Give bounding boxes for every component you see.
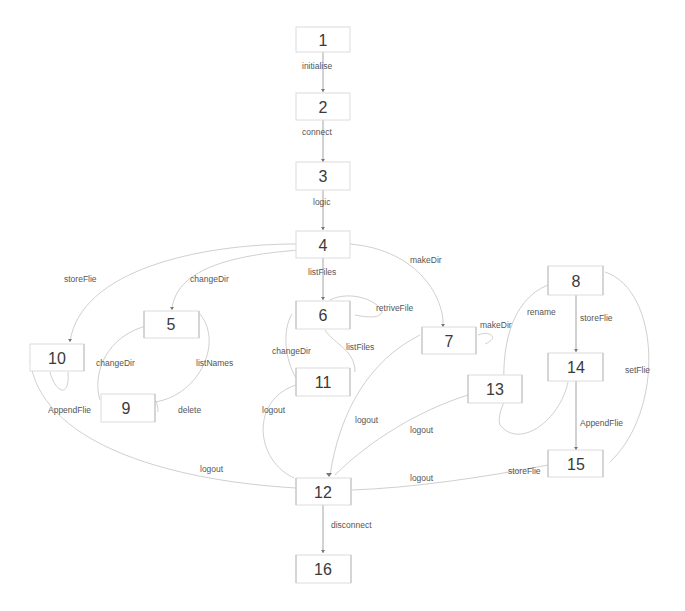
state-node-8[interactable]: 8	[548, 266, 603, 295]
edge-label-storeflie-3: storeFlie	[508, 466, 541, 476]
node-label: 10	[48, 350, 66, 367]
edge-label-logout-2: logout	[262, 405, 286, 415]
node-label: 15	[567, 456, 585, 473]
edge-label-makedir: makeDir	[410, 255, 442, 265]
edge-label-retrivefile: retriveFile	[376, 303, 414, 313]
state-node-16[interactable]: 16	[296, 555, 351, 583]
edge-label-changedir-2: changeDir	[272, 346, 311, 356]
edge-7-12	[330, 335, 420, 475]
state-node-6[interactable]: 6	[296, 301, 350, 329]
node-label: 13	[486, 381, 504, 398]
edge-13-12	[335, 395, 468, 475]
edge-label-appendflie: AppendFlie	[48, 405, 91, 415]
edge-label-logout-1: logout	[200, 464, 224, 474]
edge-label-setflie: setFlie	[625, 365, 650, 375]
state-node-9[interactable]: 9	[101, 394, 155, 422]
arrowhead	[326, 473, 332, 477]
edge-label-changedir-3: changeDir	[96, 358, 135, 368]
arrowhead	[321, 550, 325, 553]
arrowhead	[321, 89, 325, 92]
state-node-11[interactable]: 11	[296, 368, 350, 396]
arrowhead	[321, 297, 325, 300]
edge-label-changedir: changeDir	[190, 274, 229, 284]
state-node-1[interactable]: 1	[296, 27, 350, 52]
node-label: 16	[314, 561, 332, 578]
edge-label-logic: logic	[313, 197, 331, 207]
state-node-12[interactable]: 12	[296, 478, 351, 505]
edge-label-connect: connect	[302, 127, 332, 137]
node-label: 7	[445, 333, 454, 350]
edge-11-12	[263, 385, 296, 478]
edge-label-rename: rename	[527, 307, 556, 317]
edge-label-logout-5: logout	[410, 473, 434, 483]
state-node-15[interactable]: 15	[548, 450, 603, 477]
node-label: 1	[319, 32, 328, 49]
node-label: 5	[167, 316, 176, 333]
state-node-10[interactable]: 10	[30, 344, 84, 371]
edge-label-storeflie-2: storeFlie	[580, 313, 613, 323]
edge-label-listfiles: listFiles	[308, 267, 336, 277]
edge-10-12	[30, 360, 296, 488]
state-node-4[interactable]: 4	[296, 231, 350, 258]
edge-label-logout-3: logout	[355, 415, 379, 425]
state-diagram: 1 2 3 4 5 6	[0, 0, 685, 611]
node-label: 11	[315, 374, 332, 391]
nodes: 1 2 3 4 5 6	[30, 27, 603, 583]
edge-label-appendflie-2: AppendFlie	[580, 418, 623, 428]
node-label: 2	[319, 99, 328, 116]
edge-10-10	[50, 372, 68, 390]
state-node-5[interactable]: 5	[144, 311, 199, 338]
node-label: 12	[314, 484, 332, 501]
arrowhead	[321, 227, 325, 230]
edge-label-delete: delete	[178, 405, 201, 415]
arrowhead	[170, 307, 174, 310]
edge-label-listfiles-2: listFiles	[346, 342, 374, 352]
state-node-14[interactable]: 14	[548, 353, 603, 381]
arrowhead	[574, 349, 578, 352]
state-node-2[interactable]: 2	[296, 93, 350, 120]
edge-label-initialise: initialise	[302, 61, 333, 71]
edge-label-listnames: listNames	[196, 358, 233, 368]
edge-7-7	[478, 333, 493, 344]
state-node-7[interactable]: 7	[422, 327, 476, 354]
state-node-13[interactable]: 13	[468, 375, 522, 403]
node-label: 8	[572, 273, 581, 290]
state-node-3[interactable]: 3	[296, 162, 350, 190]
node-label: 14	[567, 359, 585, 376]
node-label: 6	[319, 307, 328, 324]
node-label: 4	[319, 237, 328, 254]
edge-label-storeflie: storeFlie	[64, 274, 97, 284]
arrowhead	[68, 339, 72, 342]
node-label: 9	[122, 400, 131, 417]
node-label: 3	[319, 168, 328, 185]
edge-label-makedir-2: makeDir	[480, 320, 512, 330]
edge-label-logout-4: logout	[410, 425, 434, 435]
edge-label-disconnect: disconnect	[331, 520, 372, 530]
